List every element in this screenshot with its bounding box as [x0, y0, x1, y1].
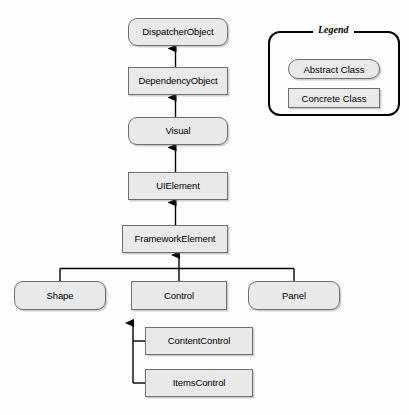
class-node-contentcontrol[interactable]: ContentControl: [145, 327, 253, 355]
class-node-panel[interactable]: Panel: [248, 281, 340, 310]
class-node-visual[interactable]: Visual: [128, 117, 228, 145]
legend-item-abstract-class: Abstract Class: [288, 59, 380, 79]
class-hierarchy-diagram: DispatcherObject DependencyObject Visual…: [0, 0, 409, 415]
class-node-dispatcherobject[interactable]: DispatcherObject: [128, 18, 228, 46]
class-node-frameworkelement[interactable]: FrameworkElement: [122, 225, 228, 253]
class-node-uielement[interactable]: UIElement: [128, 172, 228, 200]
class-node-control[interactable]: Control: [131, 281, 227, 310]
legend-title: Legend: [313, 24, 354, 35]
class-node-shape[interactable]: Shape: [14, 281, 106, 310]
legend-item-concrete-class: Concrete Class: [288, 88, 380, 108]
class-node-itemscontrol[interactable]: ItemsControl: [145, 369, 253, 397]
class-node-dependencyobject[interactable]: DependencyObject: [128, 67, 228, 95]
